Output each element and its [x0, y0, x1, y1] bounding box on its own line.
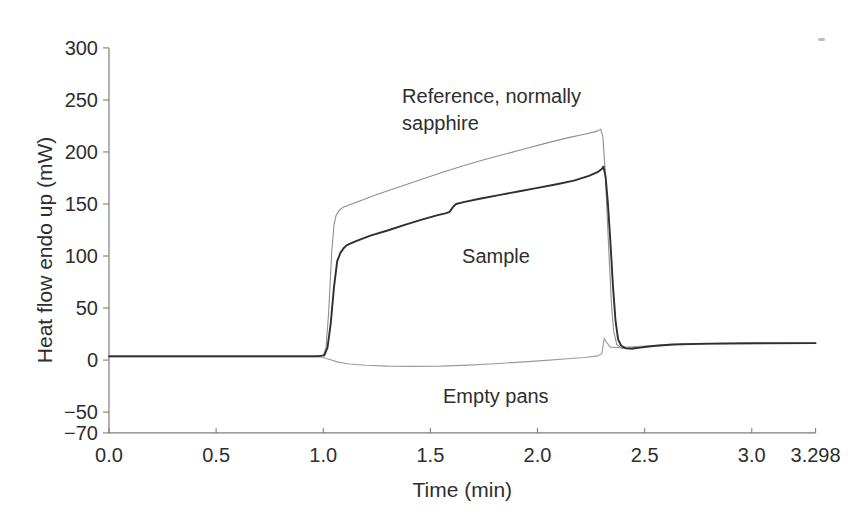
annotation-reference-label: Reference, normallysapphire — [402, 85, 581, 134]
annotation-sample-label: Sample — [462, 245, 530, 267]
annotation-text-line: Sample — [462, 245, 530, 267]
annotation-text-line: Reference, normally — [402, 85, 581, 107]
annotation-empty-pans-label: Empty pans — [443, 385, 549, 407]
series-curve-empty-pans — [109, 338, 816, 366]
x-tick-label: 1.0 — [309, 444, 337, 466]
x-tick-label: 0.5 — [202, 444, 230, 466]
y-tick-label: 250 — [65, 89, 98, 111]
y-tick-label: 300 — [65, 37, 98, 59]
y-tick-label: −50 — [64, 401, 98, 423]
y-axis-title: Heat flow endo up (mW) — [33, 137, 56, 363]
x-axis-title: Time (min) — [413, 478, 513, 501]
x-tick-label: 3.0 — [738, 444, 766, 466]
dsc-thermogram-figure: 300250200150100500−50−700.00.51.01.52.02… — [0, 0, 864, 525]
annotation-text-line: Empty pans — [443, 385, 549, 407]
y-tick-label: 200 — [65, 141, 98, 163]
y-tick-label: 100 — [65, 245, 98, 267]
x-tick-label: 2.0 — [524, 444, 552, 466]
y-axis: 300250200150100500−50−70 — [64, 37, 109, 444]
y-tick-label: 150 — [65, 193, 98, 215]
artifact-speck — [818, 38, 825, 41]
y-tick-label: −70 — [64, 422, 98, 444]
x-tick-label: 0.0 — [95, 444, 123, 466]
heat-flow-chart: 300250200150100500−50−700.00.51.01.52.02… — [0, 0, 864, 525]
x-tick-label: 2.5 — [631, 444, 659, 466]
series-curve-reference-normally-sapphire — [109, 129, 816, 356]
annotation-text-line: sapphire — [402, 112, 479, 134]
y-tick-label: 50 — [76, 297, 98, 319]
x-tick-label: 1.5 — [416, 444, 444, 466]
x-axis: 0.00.51.01.52.02.53.03.298 — [95, 428, 841, 466]
x-tick-label: 3.298 — [791, 444, 841, 466]
y-tick-label: 0 — [87, 349, 98, 371]
